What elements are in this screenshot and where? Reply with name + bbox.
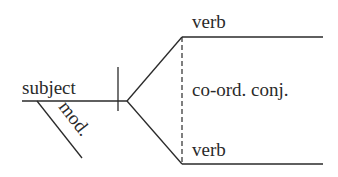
verb-bottom-label: verb <box>192 139 226 160</box>
lower-branch-line <box>127 101 182 164</box>
upper-branch-line <box>127 37 182 101</box>
subject-label: subject <box>22 77 77 98</box>
modifier-label: mod. <box>55 97 95 140</box>
sentence-diagram: subject mod. verb co-ord. conj. verb <box>0 0 338 177</box>
conjunction-label: co-ord. conj. <box>192 79 289 100</box>
verb-top-label: verb <box>192 11 226 32</box>
